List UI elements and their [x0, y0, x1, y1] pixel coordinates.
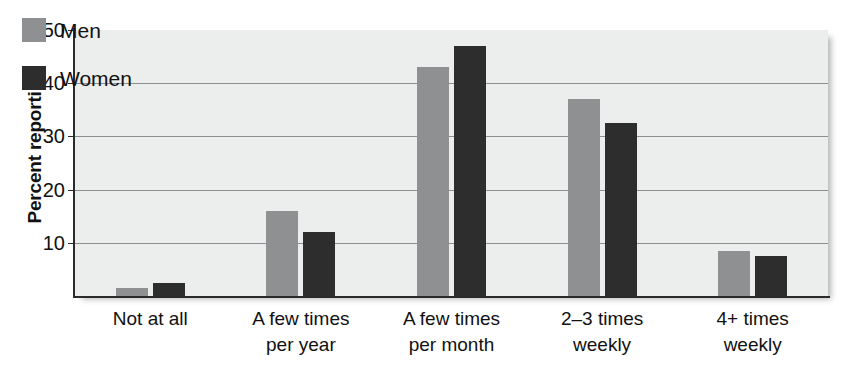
legend-swatch-women-icon	[22, 66, 46, 90]
x-axis-label-3: 2–3 timesweekly	[527, 306, 678, 357]
legend-item-women: Women	[22, 60, 132, 96]
bar-men-4	[718, 251, 750, 296]
bar-men-2	[417, 67, 449, 296]
y-tick-label: 20	[13, 178, 65, 201]
bar-men-0	[116, 288, 148, 296]
x-axis-label-2: A few timesper month	[376, 306, 527, 357]
bar-chart: Percent reporting 1020304050 Men Women N…	[0, 0, 846, 384]
y-tick-label: 10	[13, 231, 65, 254]
gridline	[75, 190, 828, 191]
gridline	[75, 83, 828, 84]
gridline	[75, 243, 828, 244]
bar-women-4	[755, 256, 787, 296]
bar-men-1	[266, 211, 298, 296]
bar-men-3	[568, 99, 600, 296]
legend-label-men: Men	[60, 20, 101, 41]
gridline	[75, 136, 828, 137]
legend: Men Women	[22, 12, 132, 108]
plot-area: 1020304050	[75, 30, 828, 296]
bar-women-3	[605, 123, 637, 296]
x-axis-line	[73, 296, 830, 298]
bar-women-1	[303, 232, 335, 296]
legend-label-women: Women	[60, 68, 132, 89]
x-axis-label-4: 4+ timesweekly	[677, 306, 828, 357]
legend-swatch-men-icon	[22, 18, 46, 42]
x-axis-label-1: A few timesper year	[226, 306, 377, 357]
bar-women-2	[454, 46, 486, 296]
y-tick-label: 30	[13, 125, 65, 148]
bar-women-0	[153, 283, 185, 296]
x-axis-label-0: Not at all	[75, 306, 226, 332]
legend-item-men: Men	[22, 12, 132, 48]
